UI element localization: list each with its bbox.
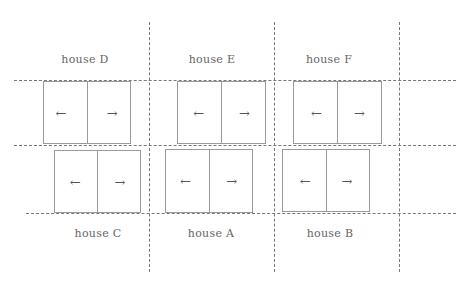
left-arrow-icon: ←	[56, 106, 67, 119]
house-a-left-unit: ←	[166, 150, 209, 212]
house-d-right-unit: →	[87, 82, 131, 143]
right-arrow-icon: →	[341, 174, 352, 187]
house-c-label: house C	[75, 227, 122, 240]
house-d-box: ← →	[43, 81, 131, 144]
house-e-right-unit: →	[221, 82, 265, 143]
house-f-right-unit: →	[337, 82, 381, 143]
left-arrow-icon: ←	[311, 106, 322, 119]
house-f-box: ← →	[293, 81, 382, 144]
vertical-divider-3	[399, 22, 400, 272]
right-arrow-icon: →	[114, 175, 125, 188]
left-arrow-icon: ←	[180, 175, 191, 188]
house-b-label: house B	[307, 227, 354, 240]
house-a-box: ← →	[165, 149, 253, 213]
house-c-left-unit: ←	[55, 151, 97, 212]
house-a-right-unit: →	[209, 150, 253, 212]
house-d-label: house D	[61, 53, 108, 66]
left-arrow-icon: ←	[193, 106, 204, 119]
house-e-box: ← →	[177, 81, 266, 144]
house-c-box: ← →	[54, 150, 141, 213]
house-f-label: house F	[306, 53, 352, 66]
house-a-label: house A	[188, 227, 235, 240]
house-c-right-unit: →	[97, 151, 140, 212]
left-arrow-icon: ←	[70, 175, 81, 188]
right-arrow-icon: →	[239, 106, 250, 119]
house-d-left-unit: ←	[44, 82, 87, 143]
horizontal-divider-bottom	[26, 213, 456, 214]
horizontal-divider-middle	[14, 145, 456, 146]
house-b-left-unit: ←	[283, 150, 326, 211]
house-f-left-unit: ←	[294, 82, 337, 143]
right-arrow-icon: →	[226, 175, 237, 188]
right-arrow-icon: →	[107, 106, 118, 119]
house-e-left-unit: ←	[178, 82, 221, 143]
house-b-box: ← →	[282, 149, 370, 212]
left-arrow-icon: ←	[300, 174, 311, 187]
house-e-label: house E	[189, 53, 236, 66]
house-b-right-unit: →	[326, 150, 370, 211]
vertical-divider-2	[274, 22, 275, 272]
right-arrow-icon: →	[354, 106, 365, 119]
vertical-divider-1	[149, 22, 150, 272]
